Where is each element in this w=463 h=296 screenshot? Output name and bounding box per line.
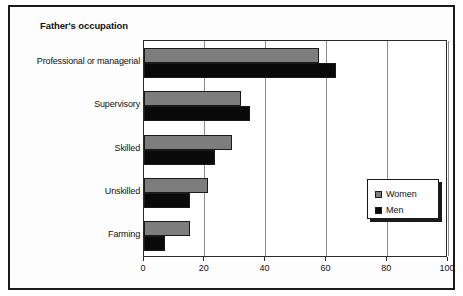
- category-label: Unskilled: [14, 186, 140, 196]
- legend-label: Women: [386, 189, 417, 199]
- bar-women: [144, 91, 241, 106]
- legend-label: Men: [386, 205, 404, 215]
- x-tick-label: 40: [260, 263, 270, 273]
- category-label: Farming: [14, 229, 140, 239]
- x-tick-mark: [143, 257, 144, 261]
- bar-men: [144, 150, 215, 165]
- bar-women: [144, 135, 232, 150]
- x-tick-mark: [203, 257, 204, 261]
- x-axis: 020406080100: [143, 257, 447, 281]
- page-title: Father's occupation: [40, 20, 128, 31]
- legend-item-women: Women: [375, 189, 417, 199]
- plot-area: [143, 40, 447, 257]
- x-tick-label: 80: [381, 263, 391, 273]
- x-tick-label: 20: [199, 263, 209, 273]
- x-tick-label: 100: [439, 263, 454, 273]
- x-tick-label: 0: [140, 263, 145, 273]
- x-tick-mark: [386, 257, 387, 261]
- chart-legend: WomenMen: [367, 179, 439, 219]
- legend-swatch-icon: [375, 191, 382, 198]
- x-tick-mark: [447, 257, 448, 261]
- bar-group: [144, 135, 446, 165]
- figure-frame: Father's occupation Professional or mana…: [8, 5, 455, 290]
- category-label: Skilled: [14, 143, 140, 153]
- legend-item-men: Men: [375, 205, 404, 215]
- bar-men: [144, 63, 336, 78]
- bar-series-layer: [144, 41, 446, 256]
- x-tick-mark: [325, 257, 326, 261]
- x-tick-label: 60: [320, 263, 330, 273]
- legend-swatch-icon: [375, 207, 382, 214]
- bar-men: [144, 106, 250, 121]
- bar-women: [144, 178, 208, 193]
- bar-women: [144, 221, 190, 236]
- bar-men: [144, 236, 165, 251]
- y-axis-category-labels: Professional or managerialSupervisorySki…: [10, 40, 140, 257]
- category-label: Professional or managerial: [14, 56, 140, 66]
- x-tick-mark: [264, 257, 265, 261]
- bar-men: [144, 193, 190, 208]
- bar-group: [144, 221, 446, 251]
- category-label: Supervisory: [14, 99, 140, 109]
- bar-group: [144, 48, 446, 78]
- bar-women: [144, 48, 319, 63]
- gridline-100: [448, 41, 449, 256]
- bar-group: [144, 91, 446, 121]
